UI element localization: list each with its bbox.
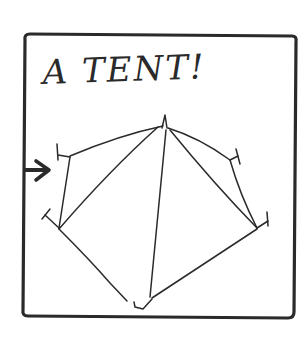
tent-icon [59,115,257,309]
sketch-canvas: A TENT! [0,0,308,343]
tent-stakes [42,144,268,228]
arrow-right-icon [26,161,49,180]
drawing-title: A TENT! [42,46,206,92]
